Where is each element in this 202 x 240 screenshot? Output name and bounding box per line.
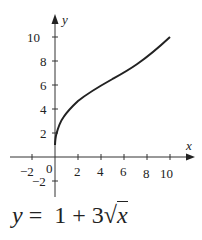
x-axis-label: x xyxy=(185,138,192,153)
equation-radicand: x xyxy=(117,201,128,228)
function-curve-drawn xyxy=(55,37,170,145)
x-tick-label: 10 xyxy=(160,166,173,181)
x-axis-arrow-icon xyxy=(186,154,195,161)
y-tick-label: 8 xyxy=(40,54,47,69)
x-tick-label: 4 xyxy=(97,164,104,179)
x-tick-label: 8 xyxy=(143,166,150,181)
y-axis-label: y xyxy=(60,12,68,27)
equation-y: y xyxy=(12,202,23,228)
y-tick-label: −2 xyxy=(32,174,46,189)
x-tick-label: 6 xyxy=(120,164,127,179)
x-tick-label: 2 xyxy=(74,164,81,179)
y-tick-label: 6 xyxy=(40,78,47,93)
equation-caption: y = 1 + 3√x xyxy=(12,202,128,229)
y-axis-arrow-icon xyxy=(52,14,59,24)
y-tick-label: 10 xyxy=(27,30,40,45)
equation-body: = 1 + 3 xyxy=(23,202,104,228)
y-tick-label: 4 xyxy=(40,102,47,117)
y-tick-label: 2 xyxy=(40,126,47,141)
sqrt-symbol: √ xyxy=(104,202,117,228)
origin-label: 0 xyxy=(46,161,53,176)
